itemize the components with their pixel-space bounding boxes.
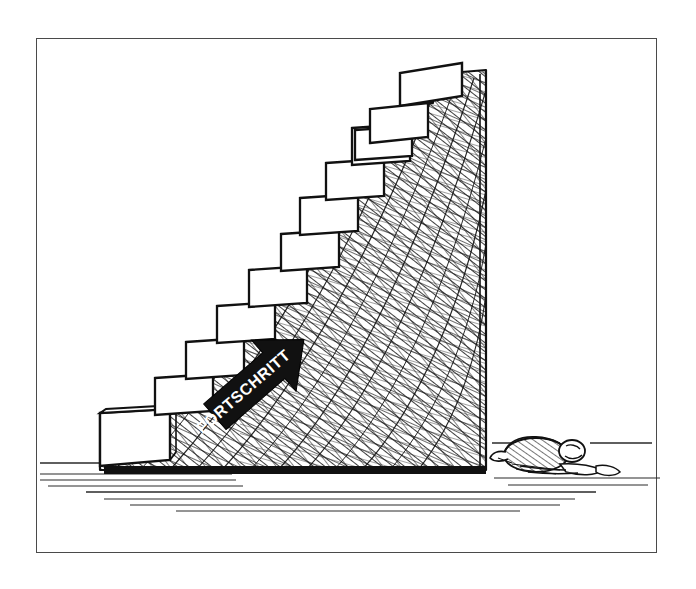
step-tread-6 [281, 230, 339, 271]
step-tread-upper-a [370, 103, 428, 143]
step-tread-2 [155, 374, 213, 415]
step-tread-3 [186, 338, 244, 379]
illustration-canvas: FORTSCHRITT [0, 0, 696, 589]
ground-shading-lines [40, 474, 660, 511]
fortschritt-drawing: FORTSCHRITT [0, 0, 696, 589]
step-tread-5 [249, 266, 307, 307]
step-tread-4 [217, 302, 275, 343]
